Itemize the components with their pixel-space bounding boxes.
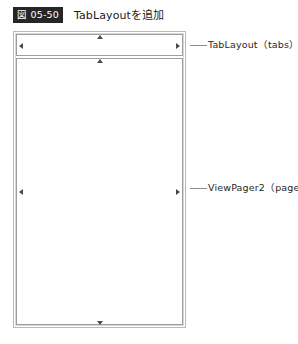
callout-leader-line-viewpager2 [190, 188, 207, 189]
constraint-top-arrow-icon [97, 59, 103, 63]
widget-tablayout[interactable] [16, 34, 183, 56]
constraint-right-arrow-icon [176, 43, 180, 49]
figure-number-badge: 図 05-50 [13, 7, 63, 23]
callout-label-tablayout: TabLayout（tabs） [208, 40, 298, 50]
constraint-left-arrow-icon [19, 43, 23, 49]
constraint-bottom-arrow-icon [97, 321, 103, 325]
widget-viewpager2[interactable] [16, 58, 183, 325]
callout-leader-line-tablayout [190, 45, 207, 46]
figure-title: TabLayoutを追加 [74, 10, 164, 21]
figure-caption: 図 05-50 TabLayoutを追加 [13, 7, 164, 23]
constraint-top-arrow-icon [97, 35, 103, 39]
callout-label-viewpager2: ViewPager2（pager） [208, 183, 298, 193]
constraint-left-arrow-icon [19, 189, 23, 195]
constraint-right-arrow-icon [176, 189, 180, 195]
